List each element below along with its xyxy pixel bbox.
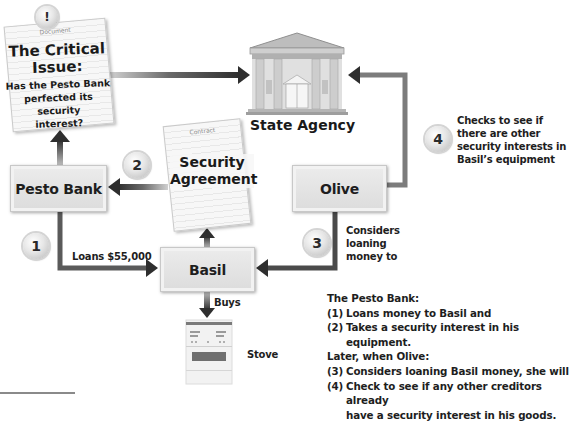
stove-label: Stove [247, 348, 278, 361]
step-badge-4: 4 [425, 126, 451, 152]
buys-label: Buys [214, 296, 240, 309]
step-badge-3: 3 [304, 230, 330, 256]
summary-heading: The Pesto Bank: [327, 291, 570, 306]
summary-item-3: (3) Considers loaning Basil money, she w… [327, 364, 570, 379]
step-badge-2: 2 [124, 152, 150, 178]
step-3-text: Considers loaning money to [346, 224, 400, 263]
summary-item-1: (1) Loans money to Basil and [327, 306, 570, 321]
summary-item-2: (2) Takes a security interest in his equ… [327, 320, 570, 349]
summary-text: The Pesto Bank: (1) Loans money to Basil… [327, 291, 570, 422]
step-badge-1: 1 [23, 233, 49, 259]
summary-subheading: Later, when Olive: [327, 349, 570, 364]
summary-item-4: (4) Check to see if any other creditors … [327, 379, 570, 422]
step-4-text: Checks to see if there are other securit… [457, 114, 566, 166]
step-1-text: Loans $55,000 [72, 250, 152, 263]
